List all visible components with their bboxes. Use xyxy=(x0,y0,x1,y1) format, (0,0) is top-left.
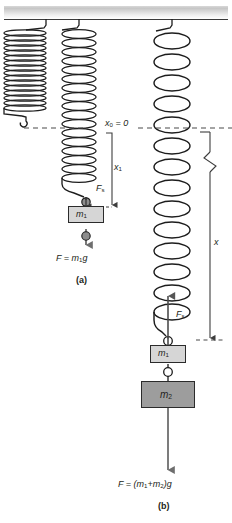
panel-b-m1-m2-connector xyxy=(164,364,173,381)
panel-a-spring xyxy=(62,19,96,206)
caption-panel-a: (a) xyxy=(76,276,87,285)
relaxed-spring xyxy=(4,19,46,127)
panel-a-weight-arrow xyxy=(82,229,90,245)
label-x1: x1 xyxy=(114,163,122,172)
label-x-zero: x0 = 0 xyxy=(105,119,128,128)
label-fs-a-sub: s xyxy=(102,186,105,193)
figure-vector-layer xyxy=(0,0,232,523)
label-weight-panel-b: F = (m1+m2)g xyxy=(118,480,172,489)
label-m1-panel-b: m1 xyxy=(158,349,169,358)
label-x1-sub: 1 xyxy=(119,165,122,172)
label-m1-panel-a: m1 xyxy=(76,210,87,219)
label-fs-panel-b: Fs xyxy=(176,310,185,319)
label-m1-a-var: m xyxy=(76,209,84,219)
label-m2-b-sub: 2 xyxy=(168,393,172,400)
label-weight-panel-a: F = m1g xyxy=(56,254,88,263)
weight-b-suffix: )g xyxy=(164,479,172,489)
label-m1-b-var: m xyxy=(158,348,166,358)
weight-a-suffix: g xyxy=(83,253,88,263)
spring-hookes-law-figure: x0 = 0 x1 x Fs Fs m1 m1 m2 F = m1g F = (… xyxy=(0,0,232,523)
label-m1-b-sub: 1 xyxy=(166,351,169,358)
weight-a-prefix: F = m xyxy=(56,253,79,263)
weight-b-mid: +m xyxy=(148,479,161,489)
label-x-total-var: x xyxy=(214,237,219,247)
caption-panel-b: (b) xyxy=(158,502,170,511)
label-x-zero-eq: = 0 xyxy=(113,118,128,128)
label-fs-panel-a: Fs xyxy=(96,184,105,193)
x1-dimension xyxy=(106,133,112,207)
panel-b-spring xyxy=(154,19,190,345)
weight-b-prefix: F = (m xyxy=(118,479,144,489)
label-m2-panel-b: m2 xyxy=(160,390,172,401)
label-fs-b-sub: s xyxy=(182,312,185,319)
label-m1-a-sub: 1 xyxy=(84,212,87,219)
x-dimension xyxy=(196,132,224,340)
label-x-total: x xyxy=(214,238,219,247)
